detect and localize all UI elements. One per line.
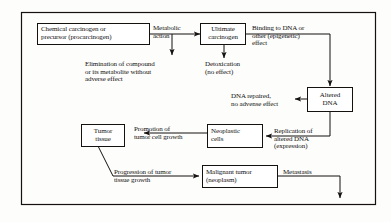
node-ultimate-carcinogen[interactable]: Ultimate carcinogen [200,23,246,45]
edge-label-detoxication: Detoxication (no effect) [205,61,240,76]
edge-label-promotion-of-tumor-cell-growth: Promotion of tumor cell growth [134,126,182,141]
edge-label-promotion-line-2: tumor cell growth [134,134,182,142]
edge-label-progression-of-tumor: Progression of tumor tissue growth [114,169,171,184]
edge-label-binding-to-dna-line-3: effect [252,40,304,48]
edge-label-replication-line-3: (expression) [274,143,312,151]
edge-label-replication-of-altered-dna: Replication of altered DNA (expression) [274,128,312,151]
node-tumor-tissue[interactable]: Tumor tissue [81,124,125,147]
node-altered-dna-line-2: DNA [323,100,338,108]
node-chemical-carcinogen-line-2: precursor (procarcinogen) [41,34,111,42]
node-malignant-tumor[interactable]: Malignant tumor (neoplasm) [202,165,278,188]
node-altered-dna[interactable]: Altered DNA [307,87,353,112]
edge-label-metabolic-action: Metabolic action [153,25,180,40]
edge-label-metabolic-action-line-2: action [153,33,180,41]
edge-label-dna-repaired-line-2: no advense effect [231,101,278,109]
node-chemical-carcinogen[interactable]: Chemical carcinogen or precursor (procar… [37,23,150,45]
node-tumor-tissue-line-2: tissue [95,136,110,144]
edge-label-progression-line-2: tissue growth [114,177,171,185]
node-neoplastic-cells-line-2: cells [211,136,223,144]
edge-label-metastasis-line-1: Metastasis [283,169,312,177]
edge-label-dna-repaired: DNA repaired, no advense effect [231,93,278,108]
node-ultimate-carcinogen-line-2: carcinogen [208,34,238,42]
diagram-canvas: Chemical carcinogen or precursor (procar… [0,0,391,222]
node-malignant-tumor-line-2: (neoplasm) [206,177,237,185]
edge-label-binding-to-dna: Binding to DNA or other (epigenetic) eff… [252,25,304,48]
edge-metastasis [277,176,340,198]
edge-label-elimination-of-compound: Elimination of compound or its metabolit… [85,61,155,84]
edge-label-elimination-line-3: adverse effect [85,76,155,84]
node-neoplastic-cells[interactable]: Neoplastic cells [207,124,263,148]
edge-label-metastasis: Metastasis [283,169,312,177]
edge-label-detoxication-line-2: (no effect) [205,69,240,77]
